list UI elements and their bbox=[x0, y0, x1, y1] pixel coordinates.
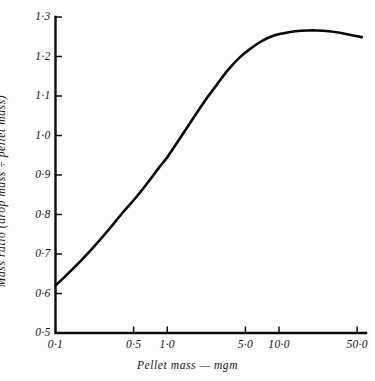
x-tick-label-1·0: 1·0 bbox=[160, 339, 175, 351]
x-axis-title: Pellet mass — mgm bbox=[137, 360, 238, 372]
y-tick-label-0·6: 0·6 bbox=[35, 288, 50, 300]
y-tick-label-1·0: 1·0 bbox=[35, 130, 50, 142]
y-tick-label-0·8: 0·8 bbox=[35, 209, 50, 221]
x-tick-label-50·0: 50·0 bbox=[346, 339, 367, 351]
chart-figure: 0·50·60·70·80·91·01·11·21·3 0·10·51·05·0… bbox=[0, 0, 375, 381]
y-tick-label-0·9: 0·9 bbox=[35, 169, 50, 181]
x-tick-label-0·5: 0·5 bbox=[126, 339, 141, 351]
tick-mark-group bbox=[56, 17, 358, 333]
x-tick-label-5·0: 5·0 bbox=[238, 339, 253, 351]
x-tick-label-10·0: 10·0 bbox=[268, 339, 289, 351]
axis-lines bbox=[56, 17, 367, 333]
y-tick-label-1·3: 1·3 bbox=[35, 11, 50, 23]
data-curve-mass-ratio bbox=[56, 30, 362, 285]
x-tick-label-0·1: 0·1 bbox=[48, 339, 63, 351]
y-axis-title: Mass ratio (drop mass ÷ pellet mass) bbox=[0, 94, 8, 286]
y-tick-label-0·7: 0·7 bbox=[35, 248, 50, 260]
y-tick-label-1·1: 1·1 bbox=[35, 90, 50, 102]
plot-area bbox=[0, 0, 375, 381]
y-tick-label-1·2: 1·2 bbox=[35, 51, 50, 63]
